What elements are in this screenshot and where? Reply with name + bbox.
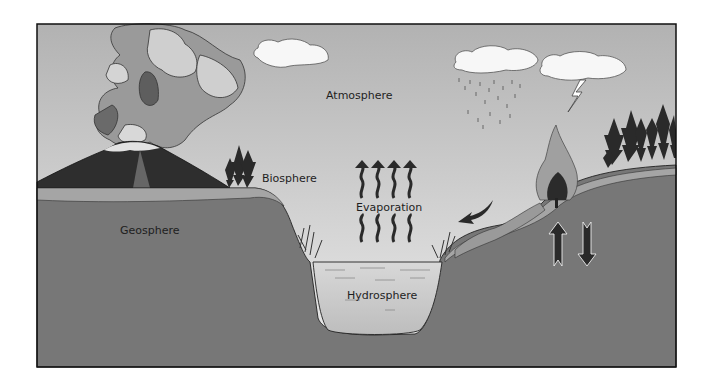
label-biosphere: Biosphere <box>262 172 317 185</box>
label-hydrosphere: Hydrosphere <box>347 289 418 302</box>
label-geosphere: Geosphere <box>120 224 180 237</box>
label-atmosphere: Atmosphere <box>326 89 393 102</box>
earth-spheres-diagram: Atmosphere Biosphere Geosphere Evaporati… <box>0 0 712 389</box>
label-evaporation: Evaporation <box>356 201 422 214</box>
